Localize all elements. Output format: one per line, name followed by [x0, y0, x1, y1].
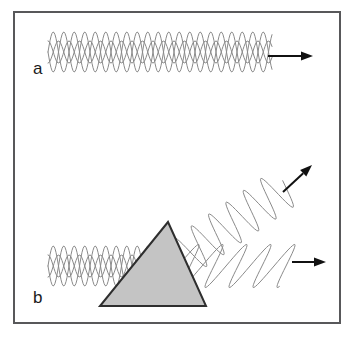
panel-label-b: b: [33, 288, 42, 307]
figure-svg: a b: [0, 0, 355, 338]
figure-root: a b: [0, 0, 355, 338]
panel-label-a: a: [33, 59, 43, 78]
